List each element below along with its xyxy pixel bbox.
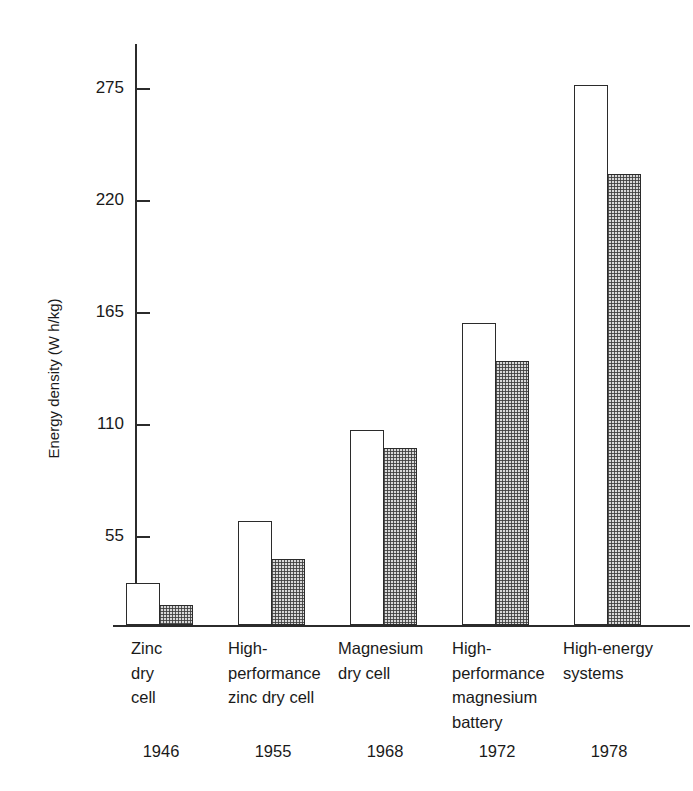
bar-open — [350, 430, 384, 625]
bar-group — [350, 0, 418, 625]
year-label: 1972 — [449, 742, 545, 760]
bar-open — [238, 521, 272, 625]
bar-open — [126, 583, 160, 625]
bar-group — [462, 0, 530, 625]
year-label: 1946 — [113, 742, 209, 760]
bar-hatched — [159, 605, 193, 625]
year-label: 1978 — [561, 742, 657, 760]
bar-hatched — [383, 448, 417, 625]
bar-chart: Energy density (W h/kg) 27522016511055 Z… — [0, 0, 693, 791]
year-label: 1955 — [225, 742, 321, 760]
bar-hatched — [495, 361, 529, 625]
category-label: Magnesium dry cell — [338, 636, 423, 685]
category-label: High-energy systems — [563, 636, 653, 685]
bar-open — [462, 323, 496, 625]
plot-area — [0, 0, 693, 627]
bar-group — [238, 0, 306, 625]
bar-hatched — [607, 174, 641, 625]
year-label: 1968 — [337, 742, 433, 760]
bar-group — [126, 0, 194, 625]
category-label: Zinc dry cell — [131, 636, 162, 710]
bar-group — [574, 0, 642, 625]
bar-hatched — [271, 559, 305, 625]
category-label: High- performance magnesium battery — [452, 636, 545, 734]
bar-open — [574, 85, 608, 625]
category-label: High- performance zinc dry cell — [228, 636, 321, 710]
